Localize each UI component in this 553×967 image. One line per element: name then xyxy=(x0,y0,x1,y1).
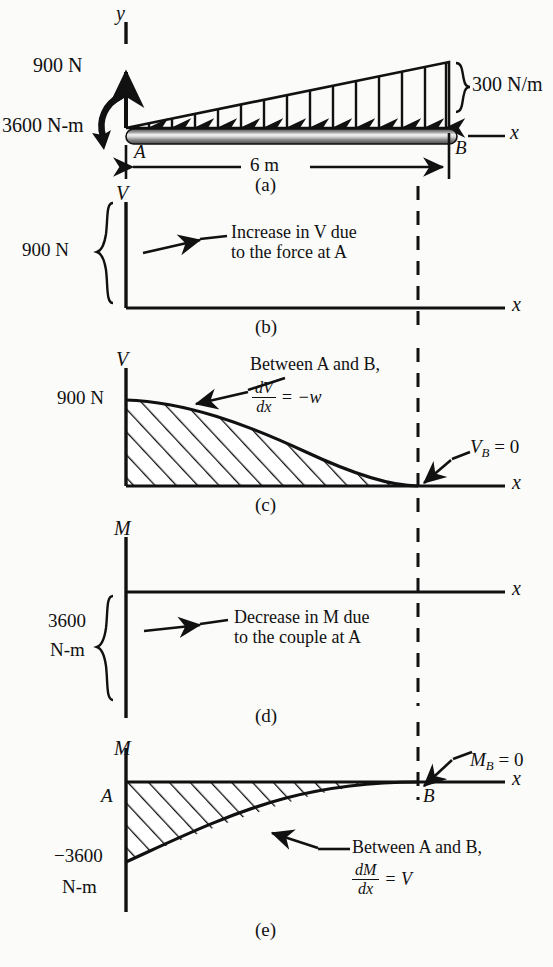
panel-e-point-b-label: B xyxy=(423,786,435,806)
panel-a-point-b-label: B xyxy=(455,138,467,158)
panel-d-callout-arrow xyxy=(144,625,200,631)
beam-shear-moment-figure: y 900 N 3600 N-m 300 N/m x A B 6 m (a) V… xyxy=(0,0,553,967)
panel-c-x-axis-label: x xyxy=(512,472,521,493)
panel-c-note-line1: Between A and B, xyxy=(250,355,380,374)
panel-e-callout-arrow xyxy=(272,833,318,848)
panel-d-caption: (d) xyxy=(255,706,277,726)
panel-c-vb-symbol: V xyxy=(470,436,482,457)
panel-c-vb-label: VB = 0 xyxy=(470,437,519,459)
panel-e-mb-symbol: M xyxy=(470,749,486,770)
panel-e-note-line1: Between A and B, xyxy=(352,838,482,857)
panel-d-note-line2: to the couple at A xyxy=(234,628,361,647)
figure-vector-layer xyxy=(0,0,553,967)
panel-b-x-axis-label: x xyxy=(512,294,521,315)
panel-e-value-label-line2: N-m xyxy=(62,877,97,897)
panel-e-note-rhs: = V xyxy=(384,870,412,889)
panel-a-y-axis-label: y xyxy=(116,3,125,24)
panel-e-note-numerator: dM xyxy=(352,862,379,880)
panel-a-x-axis-label: x xyxy=(510,122,519,143)
panel-a-graphic xyxy=(92,22,505,179)
load-300-brace xyxy=(456,63,470,112)
panel-d-m-axis-label: M xyxy=(114,518,131,539)
panel-d-callout-leader xyxy=(200,620,228,624)
panel-c-note-numerator: dV xyxy=(252,380,276,398)
panel-c-vb-rest: = 0 xyxy=(494,436,519,457)
panel-c-v-axis-label: V xyxy=(116,349,128,370)
panel-e-mb-subscript: B xyxy=(486,758,494,773)
panel-e-m-axis-label: M xyxy=(114,738,131,759)
panel-d-x-axis-label: x xyxy=(512,578,521,599)
force-900n-label: 900 N xyxy=(33,55,82,76)
panel-c-vb-arrow xyxy=(424,460,451,483)
span-dimension-label: 6 m xyxy=(250,155,279,175)
panel-d-note-line1: Decrease in M due xyxy=(234,608,369,627)
panel-e-caption: (e) xyxy=(255,920,276,940)
panel-c-note-rhs: = −w xyxy=(281,388,322,407)
panel-e-note-equation: dM dx = V xyxy=(352,862,412,897)
couple-3600-arc xyxy=(101,96,121,136)
panel-b-caption: (b) xyxy=(255,317,277,337)
panel-e-note-denominator: dx xyxy=(352,880,379,897)
panel-d-brace xyxy=(97,596,113,700)
panel-a-point-a-label: A xyxy=(134,142,146,162)
panel-c-caption: (c) xyxy=(255,495,276,515)
panel-c-vb-leader xyxy=(452,452,470,459)
panel-c-value-label: 900 N xyxy=(57,388,104,408)
panel-b-callout-arrow xyxy=(143,240,200,253)
panel-c-callout-arrow xyxy=(196,392,248,404)
panel-d-brace-label-line1: 3600 xyxy=(48,611,86,631)
distributed-load-label: 300 N/m xyxy=(472,74,543,95)
distributed-load-arrows xyxy=(149,63,446,128)
panel-b-v-axis-label: V xyxy=(116,183,128,204)
panel-c-vb-subscript: B xyxy=(482,445,490,460)
panel-e-value-label-line1: −3600 xyxy=(54,846,103,866)
panel-e-graphic xyxy=(120,748,505,912)
panel-a-caption: (a) xyxy=(255,175,276,195)
panel-e-x-axis-label: x xyxy=(512,768,521,789)
beam-body xyxy=(126,129,457,144)
panel-c-note-equation: dV dx = −w xyxy=(252,380,322,415)
panel-b-callout-leader xyxy=(200,236,227,239)
panel-b-note-line1: Increase in V due xyxy=(231,223,357,242)
panel-b-note-line2: to the force at A xyxy=(231,243,347,262)
panel-b-brace-label: 900 N xyxy=(22,240,69,260)
panel-b-brace xyxy=(97,203,113,303)
panel-d-brace-label-line2: N-m xyxy=(50,640,85,660)
panel-e-point-a-label: A xyxy=(101,786,113,806)
couple-3600-label: 3600 N-m xyxy=(2,115,84,136)
panel-c-note-denominator: dx xyxy=(252,398,276,415)
